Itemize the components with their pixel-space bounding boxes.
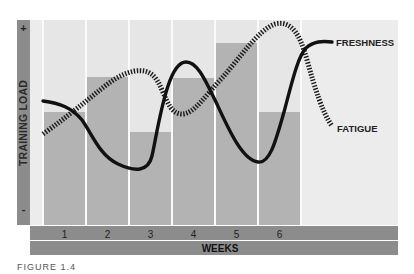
training-load-chart: + - TRAINING LOAD FRESHNESS FATIGUE 1 2 … [0, 0, 414, 274]
freshness-curve [43, 42, 332, 170]
week-label-6: 6 [258, 229, 301, 240]
week-label-3: 3 [129, 229, 172, 240]
legend-freshness: FRESHNESS [336, 37, 394, 48]
week-label-4: 4 [172, 229, 215, 240]
week-label-5: 5 [215, 229, 258, 240]
legend-fatigue: FATIGUE [337, 123, 377, 134]
week-label-2: 2 [86, 229, 129, 240]
fatigue-curve [43, 23, 332, 134]
figure-caption: FIGURE 1.4 [17, 262, 76, 272]
week-label-1: 1 [43, 229, 86, 240]
x-axis-label: WEEKS [200, 243, 240, 254]
